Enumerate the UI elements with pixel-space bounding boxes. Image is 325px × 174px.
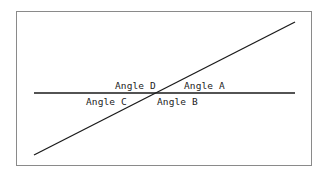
intersecting-lines-diagram: [0, 0, 325, 174]
angle-d-label: Angle D: [115, 81, 156, 91]
angle-a-label: Angle A: [184, 81, 225, 91]
angle-c-label: Angle C: [86, 97, 127, 107]
angle-b-label: Angle B: [157, 97, 198, 107]
diagonal-line: [34, 22, 295, 155]
